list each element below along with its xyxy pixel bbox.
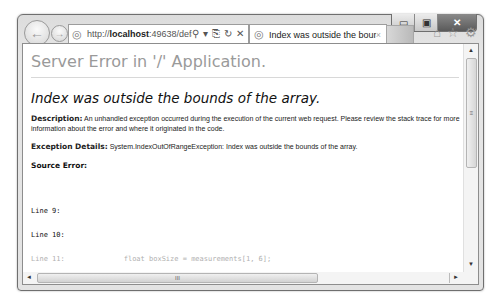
page-title: Server Error in '/' Application. <box>31 52 459 78</box>
exception-text: System.IndexOutOfRangeException: Index w… <box>108 143 358 150</box>
horizontal-scroll-thumb[interactable]: III <box>37 273 318 283</box>
vertical-scroll-thumb[interactable]: ≡ <box>466 58 477 168</box>
vertical-scrollbar[interactable]: ▲ ≡ ▼ <box>463 44 478 272</box>
exception-details: Exception Details: System.IndexOutOfRang… <box>31 142 461 152</box>
settings-gear-icon[interactable]: ⚙ <box>465 25 477 40</box>
url-rest: :49638/default <box>149 29 192 39</box>
compatibility-view-icon[interactable]: ⎘ <box>212 28 220 40</box>
url-host: localhost <box>110 29 150 39</box>
source-line: Line 9: <box>31 207 463 215</box>
ie-page-icon: ◎ <box>72 28 84 40</box>
tab-close-icon[interactable]: × <box>376 30 381 40</box>
error-message: Index was outside the bounds of the arra… <box>31 90 463 106</box>
address-bar-icons: ⚲ ▾ ⎘ ↻ ✕ <box>192 28 248 40</box>
forward-button[interactable]: → <box>51 25 68 42</box>
tab-active[interactable]: ◎ Index was outside the boun... × <box>249 24 387 44</box>
scroll-down-icon[interactable]: ▼ <box>464 258 478 270</box>
scroll-left-icon[interactable]: ◄ <box>26 274 32 280</box>
stop-icon[interactable]: ✕ <box>236 28 244 40</box>
source-line-highlighted: Line 11: float boxSize = measurements[1,… <box>31 255 463 263</box>
url-prefix: http:// <box>87 29 110 39</box>
description-label: Description: <box>31 114 83 123</box>
search-icon[interactable]: ⚲ <box>192 28 199 40</box>
horizontal-scrollbar[interactable]: ◄ III ► <box>22 272 479 285</box>
source-code-block: Line 9: Line 10: Line 11: float boxSize … <box>31 191 463 273</box>
address-bar[interactable]: ◎ http://localhost:49638/default ⚲ ▾ ⎘ ↻… <box>68 24 249 44</box>
refresh-icon[interactable]: ↻ <box>224 28 232 40</box>
command-icons: ⌂ ☆ ⚙ <box>433 25 477 40</box>
description-text: An unhandled exception occurred during t… <box>31 115 460 132</box>
scrollbar-divider <box>449 273 450 283</box>
forward-arrow-icon: → <box>55 28 65 39</box>
exception-label: Exception Details: <box>31 142 108 151</box>
source-line: Line 10: <box>31 231 463 239</box>
description: Description: An unhandled exception occu… <box>31 114 461 134</box>
address-url[interactable]: http://localhost:49638/default <box>87 29 192 39</box>
dropdown-icon[interactable]: ▾ <box>203 28 208 40</box>
favorites-star-icon[interactable]: ☆ <box>447 25 459 40</box>
error-page: Server Error in '/' Application. Index w… <box>23 44 463 272</box>
scroll-up-icon[interactable]: ▲ <box>464 44 478 56</box>
scroll-right-icon[interactable]: ► <box>453 274 459 280</box>
home-icon[interactable]: ⌂ <box>433 25 441 40</box>
tab-title: Index was outside the boun... <box>269 30 376 40</box>
page-content: Server Error in '/' Application. Index w… <box>22 43 479 273</box>
new-tab-button[interactable] <box>386 25 414 45</box>
source-error-label: Source Error: <box>31 161 463 170</box>
browser-window: ▭ ▣ ✕ ← → ◎ http://localhost:49638/defau… <box>17 14 484 291</box>
back-arrow-icon: ← <box>30 25 44 41</box>
grip-icon: ≡ <box>470 110 474 116</box>
ie-tab-icon: ◎ <box>254 28 266 41</box>
